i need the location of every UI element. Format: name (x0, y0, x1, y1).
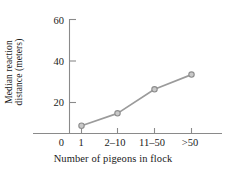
x-axis-label: Number of pigeons in flock (0, 153, 226, 164)
data-point->50 (189, 72, 194, 77)
data-point-2–10 (115, 111, 120, 116)
data-series-line (82, 75, 192, 126)
data-point-11–50 (152, 87, 157, 92)
chart-plot-area (0, 0, 226, 174)
data-point-1 (79, 123, 84, 128)
chart-figure: Median reaction distance (meters) 60 40 … (0, 0, 226, 174)
